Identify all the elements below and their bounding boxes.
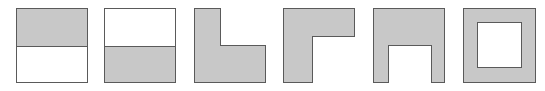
- square-5-white-bottom-center: [373, 8, 445, 83]
- square-6-white-center: [463, 8, 536, 83]
- white-region: [220, 8, 266, 46]
- square-2-bottom-shaded: [104, 8, 176, 83]
- divider-line: [105, 46, 175, 47]
- shaded-region: [17, 9, 87, 46]
- square-4-white-bottom-right: [283, 8, 355, 83]
- white-region: [477, 22, 522, 68]
- divider-line: [17, 46, 87, 47]
- square-3-white-top-right: [194, 8, 266, 83]
- shaded-region: [105, 46, 175, 83]
- white-region: [388, 45, 432, 83]
- white-region: [312, 36, 355, 83]
- square-1-top-shaded: [16, 8, 88, 83]
